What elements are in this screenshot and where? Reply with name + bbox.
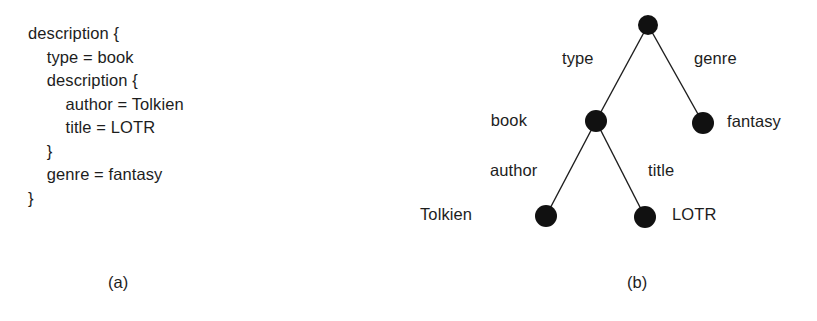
tree-node-label-lotr: LOTR bbox=[672, 205, 716, 223]
tree-node-book bbox=[585, 110, 607, 132]
tree-edge-label-author: author bbox=[490, 161, 537, 179]
tree-node-label-book: book bbox=[420, 111, 527, 129]
tree-edge-root-fantasy bbox=[648, 25, 703, 123]
tree-edge-root-book bbox=[596, 25, 648, 121]
tree-edge-label-genre: genre bbox=[694, 49, 737, 67]
tree-edge-book-lotr bbox=[596, 121, 645, 217]
code-line: author = Tolkien bbox=[28, 93, 358, 117]
tree-svg bbox=[420, 0, 817, 260]
code-line: title = LOTR bbox=[28, 116, 358, 140]
tree-node-root bbox=[638, 15, 658, 35]
code-line: } bbox=[28, 187, 358, 211]
tree-node-label-tolkien: Tolkien bbox=[420, 205, 452, 223]
tree-node-fantasy bbox=[692, 112, 714, 134]
code-block-panel-a: description { type = book description { … bbox=[28, 22, 358, 210]
tree-diagram-panel-b: typegenreauthortitlebookfantasyTolkienLO… bbox=[420, 0, 817, 260]
tree-edge-label-title: title bbox=[648, 161, 674, 179]
tree-node-lotr bbox=[634, 206, 656, 228]
tree-node-tolkien bbox=[535, 205, 557, 227]
tree-edge-book-tolkien bbox=[546, 121, 596, 216]
caption-panel-b: (b) bbox=[627, 273, 647, 292]
code-line: genre = fantasy bbox=[28, 163, 358, 187]
code-line: type = book bbox=[28, 46, 358, 70]
code-line: description { bbox=[28, 69, 358, 93]
tree-edge-label-type: type bbox=[562, 49, 594, 67]
tree-node-label-fantasy: fantasy bbox=[727, 112, 781, 130]
tree-node-group bbox=[535, 15, 714, 228]
code-line: } bbox=[28, 140, 358, 164]
caption-panel-a: (a) bbox=[108, 273, 128, 292]
figure-container: description { type = book description { … bbox=[0, 0, 817, 321]
code-line: description { bbox=[28, 22, 358, 46]
